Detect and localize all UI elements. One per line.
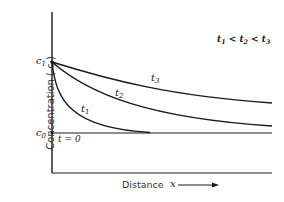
diffusion-plot [0, 0, 284, 202]
x-axis-label: Distance [122, 180, 164, 190]
t3-label: t3 [151, 73, 160, 85]
x-arrow-head [212, 183, 219, 188]
curve-t3 [52, 62, 272, 103]
y-axis-label: Concentration ( c ) [45, 56, 56, 150]
t1-label: t1 [81, 104, 90, 116]
t0-label: t = 0 [58, 135, 81, 144]
time-order-annotation: t1 < t2 < t3 [217, 35, 270, 45]
c1-label: c1 [36, 56, 46, 68]
t2-label: t2 [115, 88, 124, 100]
x-symbol: x [170, 179, 176, 189]
c0-label: c0 [36, 128, 46, 140]
